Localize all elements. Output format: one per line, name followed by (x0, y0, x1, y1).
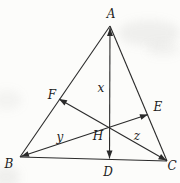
measure-label-y: y (56, 130, 64, 144)
point-label-A: A (106, 7, 116, 21)
measure-label-x: x (98, 81, 105, 95)
segment-cevian-BE (21, 115, 148, 157)
point-label-H: H (92, 129, 104, 143)
geometry-figure: ABCDEFHxyz (0, 0, 180, 183)
point-label-E: E (153, 100, 163, 114)
segment-cevian-CF (59, 99, 167, 161)
scanned-figure-page: ABCDEFHxyz (0, 0, 180, 183)
measure-label-z: z (133, 129, 141, 143)
arrowhead-icon (139, 114, 148, 120)
point-label-B: B (4, 157, 14, 171)
segment-side-BC (20, 157, 167, 161)
arrowhead-icon (107, 150, 113, 158)
point-label-F: F (47, 88, 57, 102)
segment-cevian-DA (110, 28, 111, 159)
point-label-D: D (102, 165, 113, 179)
point-label-C: C (167, 159, 176, 173)
arrowhead-icon (59, 99, 67, 106)
